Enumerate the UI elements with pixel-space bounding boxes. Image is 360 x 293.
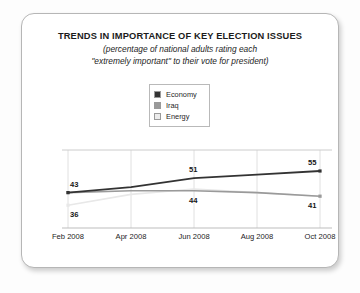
- chart-x-axis: Feb 2008Apr 2008Jun 2008Aug 2008Oct 2008: [26, 230, 336, 246]
- legend-item-iraq: Iraq: [154, 100, 204, 111]
- chart-data-point: [66, 204, 69, 207]
- chart-data-point: [66, 191, 69, 194]
- chart-point-label: 41: [308, 201, 316, 210]
- x-axis-tick-label: Feb 2008: [52, 232, 84, 241]
- legend-label-economy: Economy: [166, 90, 197, 99]
- chart-legend: Economy Iraq Energy: [149, 84, 210, 127]
- x-axis-tick-label: Apr 2008: [116, 232, 147, 241]
- chart-point-label: 44: [189, 196, 197, 205]
- x-axis-tick-label: Jun 2008: [178, 232, 209, 241]
- x-axis-tick-label: Oct 2008: [305, 232, 336, 241]
- screenshot-root: TRENDS IN IMPORTANCE OF KEY ELECTION ISS…: [0, 0, 360, 293]
- chart-point-label: 55: [308, 158, 316, 167]
- chart-subtitle-line-2: "extremely important" to their vote for …: [22, 56, 338, 68]
- chart-data-point: [318, 195, 321, 198]
- chart-plot-area: 433651445541: [26, 148, 336, 230]
- legend-label-iraq: Iraq: [166, 101, 179, 110]
- chart-point-label: 43: [70, 180, 78, 189]
- legend-swatch-energy: [154, 113, 161, 120]
- chart-point-label: 51: [189, 165, 197, 174]
- chart-subtitle-line-1: (percentage of national adults rating ea…: [22, 44, 338, 56]
- chart-title: TRENDS IN IMPORTANCE OF KEY ELECTION ISS…: [22, 31, 338, 41]
- chart-card: TRENDS IN IMPORTANCE OF KEY ELECTION ISS…: [21, 13, 339, 268]
- legend-item-energy: Energy: [154, 111, 204, 122]
- legend-label-energy: Energy: [166, 112, 189, 121]
- legend-item-economy: Economy: [154, 89, 204, 100]
- chart-subtitle: (percentage of national adults rating ea…: [22, 44, 338, 67]
- x-axis-tick-label: Aug 2008: [241, 232, 274, 241]
- legend-swatch-economy: [154, 91, 161, 98]
- chart-point-label: 36: [70, 210, 78, 219]
- chart-data-point: [318, 169, 321, 172]
- legend-swatch-iraq: [154, 102, 161, 109]
